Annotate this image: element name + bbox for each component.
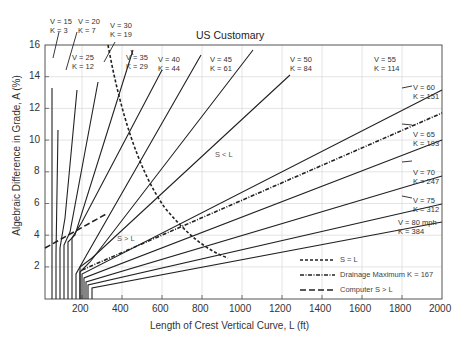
chart-plot xyxy=(0,0,467,342)
curve-k247 xyxy=(86,176,442,299)
x-tick-1600: 1600 xyxy=(349,303,371,314)
x-tick-1400: 1400 xyxy=(309,303,331,314)
x-tick-1000: 1000 xyxy=(229,303,251,314)
y-tick-6: 6 xyxy=(34,197,40,208)
label-v30: V = 30K = 19 xyxy=(110,21,132,39)
legend-drainage-max: Drainage Maximum K = 167 xyxy=(340,270,433,279)
y-tick-4: 4 xyxy=(34,229,40,240)
x-tick-600: 600 xyxy=(152,303,169,314)
curve-k44 xyxy=(72,70,162,299)
label-v35: V = 35K = 29 xyxy=(126,53,148,71)
x-tick-2000: 2000 xyxy=(429,303,451,314)
y-tick-14: 14 xyxy=(29,70,40,81)
curve-k61 xyxy=(76,55,201,299)
label-v50: V = 50K = 84 xyxy=(290,55,312,73)
y-tick-8: 8 xyxy=(34,165,40,176)
region-s-less-l: S < L xyxy=(215,150,233,159)
label-v70: V = 70K = 247 xyxy=(413,168,439,186)
y-tick-2: 2 xyxy=(34,260,40,271)
label-v45: V = 45K = 61 xyxy=(210,55,232,73)
y-tick-10: 10 xyxy=(29,134,40,145)
x-tick-1200: 1200 xyxy=(269,303,291,314)
x-tick-200: 200 xyxy=(72,303,89,314)
x-tick-800: 800 xyxy=(192,303,209,314)
label-v80: V = 80 mphK = 384 xyxy=(398,218,437,236)
chart-title: US Customary xyxy=(196,29,264,41)
label-v40: V = 40K = 44 xyxy=(158,55,180,73)
label-v60: V = 60K = 151 xyxy=(413,83,439,101)
label-v65: V = 65K = 193 xyxy=(413,130,439,148)
label-v55: V = 55K = 114 xyxy=(374,55,400,73)
drainage-max-line xyxy=(82,113,442,270)
curve-k7 xyxy=(56,130,58,299)
k-curves xyxy=(52,50,442,299)
label-v20: V = 20K = 7 xyxy=(78,17,100,35)
label-v25: V = 25K = 12 xyxy=(72,53,94,71)
label-v15: V = 15K = 3 xyxy=(50,17,72,35)
computer-s-gt-l-line xyxy=(45,213,108,248)
legend-computer: Computer S > L xyxy=(340,285,393,294)
label-v75: V = 75K = 312 xyxy=(413,196,439,214)
x-tick-1800: 1800 xyxy=(389,303,411,314)
x-tick-400: 400 xyxy=(112,303,129,314)
y-tick-16: 16 xyxy=(29,39,40,50)
y-tick-12: 12 xyxy=(29,102,40,113)
region-s-greater-l: S > L xyxy=(117,234,135,243)
legend-s-equals-l: S = L xyxy=(340,255,358,264)
y-axis-label: Algebraic Difference in Grade, A (%) xyxy=(11,56,22,256)
curve-k29 xyxy=(68,50,133,299)
x-axis-label: Length of Crest Vertical Curve, L (ft) xyxy=(150,320,309,331)
